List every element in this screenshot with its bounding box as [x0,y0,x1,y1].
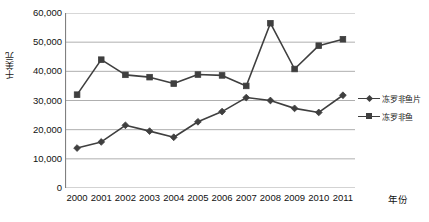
x-axis-tick-label: 2011 [326,192,360,203]
x-axis-title: 年份 [388,192,408,206]
chart-legend: 冻罗非鱼片冻罗非鱼 [358,90,429,126]
data-point-marker [219,73,225,79]
data-point-marker [219,108,226,115]
y-axis-tick-label: 60,000 [16,8,62,18]
data-point-marker [268,20,274,26]
data-point-marker [243,83,249,89]
series-line [77,95,343,148]
legend-item[interactable]: 冻罗非鱼片 [358,90,429,106]
y-axis-tick-label: 50,000 [16,37,62,47]
data-point-marker [292,66,298,72]
data-point-marker [267,97,274,104]
plot-svg [65,13,355,188]
legend-label: 冻罗非鱼片 [380,93,421,104]
data-point-marker [171,81,177,87]
data-point-marker [195,72,201,78]
y-axis-tick-label: 30,000 [16,96,62,106]
y-axis-tick-label: 20,000 [16,125,62,135]
series-line [77,23,343,94]
plot-area [65,13,355,188]
line-chart: 千美元 60,00050,00040,00030,00020,00010,000… [0,0,429,222]
data-point-marker [98,57,104,63]
legend-label: 冻罗非鱼 [380,111,413,122]
legend-key-square-icon [358,111,380,121]
y-axis-tick-label: 10,000 [16,154,62,164]
x-axis-tick-labels: 2000200120022003200420052006200720082009… [65,190,355,208]
data-point-marker [316,43,322,49]
data-point-marker [291,105,298,112]
data-point-marker [340,36,346,42]
legend-marker [365,94,372,101]
data-point-marker [243,94,250,101]
data-point-marker [123,72,129,78]
y-axis-tick-label: 40,000 [16,66,62,76]
y-axis-tick-label: 0 [16,183,62,193]
data-point-marker [74,145,81,152]
y-axis-tick-labels: 60,00050,00040,00030,00020,00010,0000 [14,0,62,222]
legend-item[interactable]: 冻罗非鱼 [358,108,429,124]
data-point-marker [146,128,153,135]
legend-marker [366,113,372,119]
data-point-marker [147,74,153,80]
data-point-marker [74,92,80,98]
legend-key-diamond-icon [358,93,380,103]
